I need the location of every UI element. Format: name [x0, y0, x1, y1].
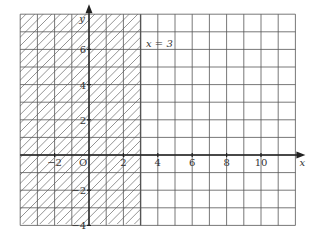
svg-text:4: 4	[155, 157, 161, 168]
svg-text:2: 2	[120, 157, 126, 168]
svg-text:10: 10	[255, 157, 268, 168]
svg-text:6: 6	[80, 44, 86, 55]
svg-text:2: 2	[80, 115, 86, 126]
svg-text:6: 6	[189, 157, 195, 168]
svg-text:−4: −4	[71, 220, 86, 231]
svg-text:4: 4	[80, 80, 86, 91]
svg-text:y: y	[78, 13, 85, 24]
svg-text:−2: −2	[71, 185, 86, 196]
svg-text:8: 8	[223, 157, 229, 168]
svg-text:x: x	[300, 157, 306, 168]
coordinate-graph: −2246810642−2−4Oxy x = 3	[0, 0, 311, 241]
axis-labels: −2246810642−2−4Oxy	[47, 13, 305, 231]
svg-text:−2: −2	[47, 157, 62, 168]
boundary-line-label: x = 3	[146, 38, 173, 49]
svg-text:O: O	[79, 157, 87, 168]
